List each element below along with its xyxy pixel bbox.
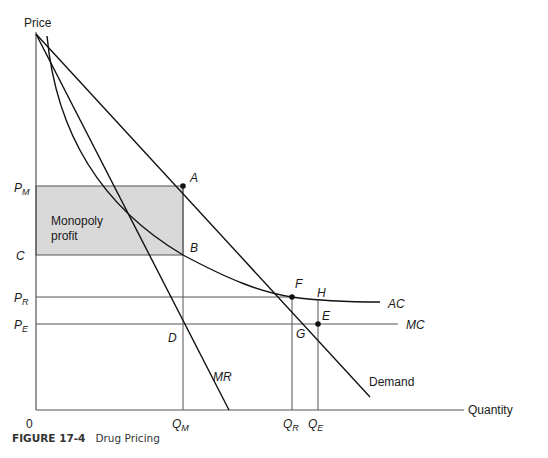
pe-label: PE [14, 318, 29, 334]
label-a: A [189, 171, 198, 185]
figure-title: Drug Pricing [95, 432, 159, 444]
c-label: C [16, 249, 25, 263]
mc-label: MC [406, 318, 425, 332]
x-axis-title: Quantity [468, 403, 513, 417]
figure-number: FIGURE 17-4 [12, 432, 85, 444]
pr-label: PR [14, 291, 29, 307]
label-b: B [190, 241, 198, 255]
label-e: E [322, 309, 331, 323]
origin-label: 0 [26, 417, 33, 431]
mr-label: MR [213, 370, 232, 384]
qe-label: QE [308, 417, 324, 433]
qm-label: QM [172, 417, 189, 433]
figure-caption: FIGURE 17-4Drug Pricing [12, 432, 160, 444]
drug-pricing-chart: Price Quantity 0 PM C PR PE QM QR QE A B… [0, 0, 548, 458]
point-f [289, 294, 295, 300]
ac-curve [47, 36, 380, 302]
label-g: G [296, 327, 305, 341]
demand-label: Demand [369, 375, 414, 389]
point-e [315, 321, 321, 327]
profit-label-line1: Monopoly [51, 214, 103, 228]
label-h: H [317, 286, 326, 300]
label-d: D [168, 331, 177, 345]
ac-label: AC [387, 297, 405, 311]
point-a [180, 183, 186, 189]
y-axis-title: Price [24, 16, 52, 30]
profit-label-line2: profit [51, 229, 78, 243]
qr-label: QR [283, 417, 299, 433]
pm-label: PM [14, 181, 30, 197]
label-f: F [295, 277, 303, 291]
